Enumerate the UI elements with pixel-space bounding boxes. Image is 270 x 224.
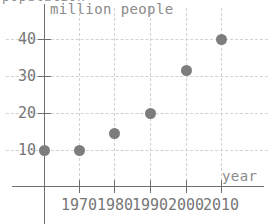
x-tick-1970 — [79, 180, 80, 193]
data-point — [39, 145, 50, 156]
y-axis-tick-label: 10 — [0, 141, 36, 159]
x-axis-tick-label: 2010 — [199, 196, 243, 214]
data-point — [109, 128, 120, 139]
data-point — [145, 108, 156, 119]
gridline-vertical-2000 — [186, 8, 187, 186]
y-axis-tick-label: 40 — [0, 30, 36, 48]
x-tick-2000 — [186, 180, 187, 193]
gridline-vertical-1970 — [79, 8, 80, 186]
y-tick-20 — [38, 113, 51, 114]
gridline-vertical-1980 — [114, 8, 115, 186]
x-tick-1980 — [114, 180, 115, 193]
y-axis-tick-label: 20 — [0, 104, 36, 122]
y-tick-40 — [38, 39, 51, 40]
data-point — [181, 65, 192, 76]
y-tick-30 — [38, 76, 51, 77]
y-axis-line — [44, 4, 45, 224]
gridline-vertical-1990 — [150, 8, 151, 186]
x-axis-title: year — [222, 168, 257, 184]
data-point — [216, 34, 227, 45]
y-axis-title: million people — [50, 1, 174, 17]
x-axis-line — [12, 186, 264, 187]
data-point — [74, 145, 85, 156]
y-axis-tick-label: 30 — [0, 67, 36, 85]
x-tick-1990 — [150, 180, 151, 193]
scatter-chart: population 40 30 20 10 1970 1980 1990 20… — [0, 0, 270, 224]
